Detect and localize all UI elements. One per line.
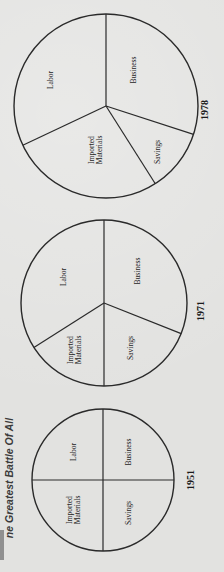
pie-chart-1978: BusinessSavingsImportedMaterialsLabor197…	[14, 14, 210, 198]
slice-label-labor: Labor	[46, 70, 55, 89]
slice-label-savings: Savings	[124, 501, 133, 525]
slice-label-business: Business	[133, 257, 142, 284]
pie-chart-1951: BusinessSavingsImportedMaterialsLabor195…	[32, 409, 196, 551]
slice-label-imported-materials: ImportedMaterials	[66, 336, 83, 365]
year-label: 1978	[199, 100, 210, 120]
year-label: 1951	[185, 470, 196, 490]
slice-label-imported-materials: ImportedMaterials	[87, 136, 104, 165]
slice-label-labor: Labor	[59, 267, 68, 286]
pie-charts: BusinessSavingsImportedMaterialsLabor197…	[0, 0, 224, 572]
slice-label-labor: Labor	[69, 442, 78, 461]
slice-divider	[106, 106, 155, 184]
slice-label-business: Business	[129, 56, 138, 83]
slice-label-savings: Savings	[153, 140, 162, 164]
slice-divider	[104, 303, 181, 334]
year-label: 1971	[195, 301, 206, 321]
pie-chart-1971: BusinessSavingsImportedMaterialsLabor197…	[21, 220, 206, 386]
slice-label-savings: Savings	[126, 336, 135, 360]
slice-label-imported-materials: ImportedMaterials	[65, 496, 82, 525]
slice-label-business: Business	[124, 438, 133, 465]
slice-divider	[106, 106, 194, 134]
